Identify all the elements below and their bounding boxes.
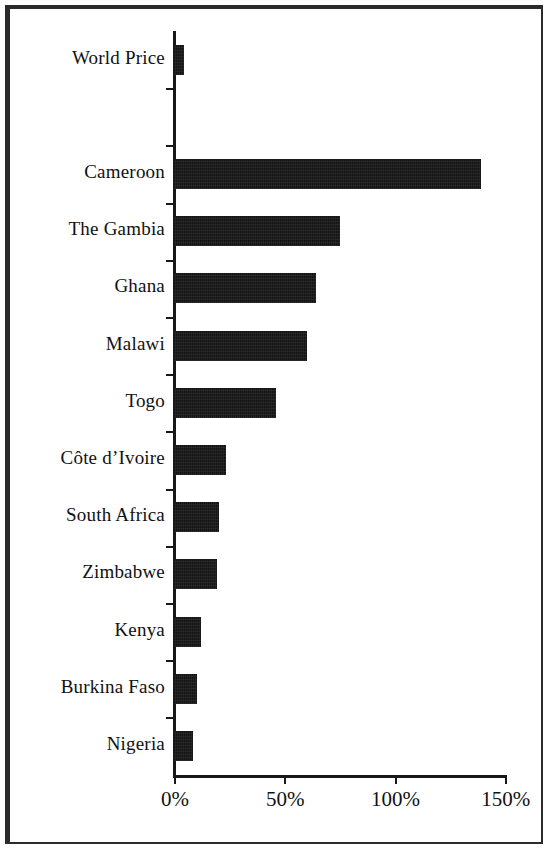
y-axis-label-world-price: World Price [72, 47, 165, 69]
y-axis-tick [166, 660, 174, 662]
bar-nigeria [175, 731, 193, 761]
y-axis-label-ghana: Ghana [114, 275, 165, 297]
y-axis-label-south-africa: South Africa [66, 504, 165, 526]
figure-frame: World PriceCameroonThe GambiaGhanaMalawi… [0, 0, 549, 851]
y-axis-label-cameroon: Cameroon [84, 161, 165, 183]
bar-burkina-faso [175, 674, 197, 704]
x-axis-label-150: 150% [481, 787, 530, 812]
y-axis-tick [166, 145, 174, 147]
bar-the-gambia [175, 216, 340, 246]
y-axis-label-malawi: Malawi [106, 333, 165, 355]
y-axis-tick [166, 431, 174, 433]
y-axis-label-c-te-d-ivoire: Côte d’Ivoire [61, 447, 165, 469]
y-axis-label-kenya: Kenya [114, 619, 165, 641]
bar-world-price [175, 45, 184, 75]
bar-kenya [175, 617, 201, 647]
y-axis-label-zimbabwe: Zimbabwe [82, 561, 165, 583]
bar-ghana [175, 273, 316, 303]
x-axis-label-100: 100% [371, 787, 420, 812]
bar-c-te-d-ivoire [175, 445, 226, 475]
y-axis-label-nigeria: Nigeria [107, 733, 165, 755]
y-axis-tick [166, 203, 174, 205]
y-axis-label-togo: Togo [125, 390, 165, 412]
x-axis-label-0: 0% [161, 787, 189, 812]
y-axis-label-the-gambia: The Gambia [69, 218, 165, 240]
y-axis-tick [166, 374, 174, 376]
x-axis-tick [174, 766, 176, 784]
y-axis-tick [166, 260, 174, 262]
y-axis-tick [166, 317, 174, 319]
y-axis-tick [166, 489, 174, 491]
bar-south-africa [175, 502, 219, 532]
x-axis-label-50: 50% [266, 787, 305, 812]
bar-malawi [175, 331, 307, 361]
y-axis-label-burkina-faso: Burkina Faso [61, 676, 165, 698]
bar-zimbabwe [175, 559, 217, 589]
y-axis-tick [166, 546, 174, 548]
y-axis-tick [166, 717, 174, 719]
x-axis-line [173, 775, 505, 778]
bar-cameroon [175, 159, 481, 189]
bar-chart-plot-area: World PriceCameroonThe GambiaGhanaMalawi… [0, 0, 549, 851]
x-axis-tick [284, 775, 286, 784]
bar-togo [175, 388, 276, 418]
y-axis-tick [166, 603, 174, 605]
x-axis-tick [395, 775, 397, 784]
x-axis-tick [505, 775, 507, 784]
y-axis-tick [166, 88, 174, 90]
